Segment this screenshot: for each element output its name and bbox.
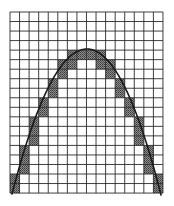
shaded-cell — [115, 88, 125, 98]
shaded-cell — [20, 164, 30, 174]
shaded-cell — [106, 69, 116, 79]
diagram-canvas — [0, 0, 174, 206]
curve-rasterization-diagram — [0, 0, 174, 206]
shaded-cell — [125, 107, 135, 117]
shaded-cell — [58, 69, 68, 79]
grid — [10, 12, 163, 193]
shaded-cell — [86, 50, 96, 60]
shaded-cell — [96, 60, 106, 70]
shaded-cell — [39, 107, 49, 117]
shaded-cell — [48, 88, 58, 98]
shaded-cell — [29, 136, 39, 146]
shaded-cell — [134, 136, 144, 146]
shaded-cell — [144, 164, 154, 174]
shaded-cell — [67, 60, 77, 70]
